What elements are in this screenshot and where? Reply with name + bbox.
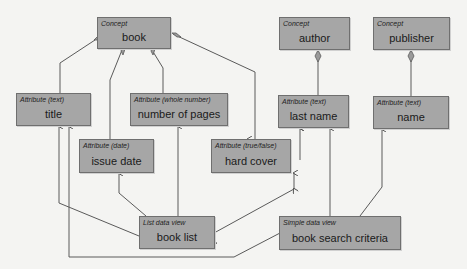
concept-kind-label: Concept bbox=[283, 20, 309, 27]
composition-book-title bbox=[60, 40, 95, 93]
concept-author[interactable]: Concept author bbox=[279, 17, 350, 50]
view-name: book search criteria bbox=[280, 232, 400, 244]
diamond-book-hardcover bbox=[172, 33, 181, 37]
attribute-name: number of pages bbox=[131, 108, 227, 120]
ref-booklist-issue bbox=[119, 173, 146, 216]
attribute-number-of-pages[interactable]: Attribute (whole number) number of pages bbox=[130, 93, 228, 126]
attribute-kind-label: Attribute (text) bbox=[282, 98, 326, 105]
attribute-name: name bbox=[374, 111, 448, 123]
view-name: book list bbox=[140, 231, 214, 243]
view-kind-label: Simple data view bbox=[283, 219, 336, 226]
view-book-search-criteria[interactable]: Simple data view book search criteria bbox=[279, 216, 401, 250]
ref-search-name bbox=[360, 129, 382, 216]
attribute-kind-label: Attribute (whole number) bbox=[134, 96, 211, 103]
attribute-kind-label: Attribute (text) bbox=[377, 99, 421, 106]
attribute-kind-label: Attribute (text) bbox=[20, 96, 64, 103]
attribute-name: issue date bbox=[80, 155, 153, 167]
concept-name: book bbox=[98, 31, 170, 43]
attribute-name: last name bbox=[279, 110, 348, 122]
attribute-name: title bbox=[17, 108, 90, 120]
composition-book-pages bbox=[152, 50, 163, 93]
concept-book[interactable]: Concept book bbox=[97, 17, 171, 49]
composition-book-issue-date bbox=[110, 50, 122, 139]
concept-kind-label: Concept bbox=[101, 20, 127, 27]
concept-kind-label: Concept bbox=[377, 20, 403, 27]
diamond-publisher bbox=[408, 50, 414, 62]
attribute-hard-cover[interactable]: Attribute (true/false) hard cover bbox=[211, 139, 291, 173]
attribute-title[interactable]: Attribute (text) title bbox=[16, 93, 91, 126]
concept-publisher[interactable]: Concept publisher bbox=[373, 17, 450, 50]
view-kind-label: List data view bbox=[143, 219, 185, 226]
ref-booklist-lastname bbox=[291, 128, 300, 212]
attribute-issue-date[interactable]: Attribute (date) issue date bbox=[79, 139, 154, 173]
concept-name: publisher bbox=[374, 32, 449, 44]
attribute-kind-label: Attribute (true/false) bbox=[215, 142, 276, 149]
concept-name: author bbox=[280, 32, 349, 44]
attribute-last-name[interactable]: Attribute (text) last name bbox=[278, 95, 349, 128]
attribute-publisher-name[interactable]: Attribute (text) name bbox=[373, 96, 449, 129]
view-book-list[interactable]: List data view book list bbox=[139, 216, 215, 249]
attribute-kind-label: Attribute (date) bbox=[83, 142, 129, 149]
attribute-name: hard cover bbox=[212, 155, 290, 167]
diamond-author bbox=[315, 50, 321, 62]
